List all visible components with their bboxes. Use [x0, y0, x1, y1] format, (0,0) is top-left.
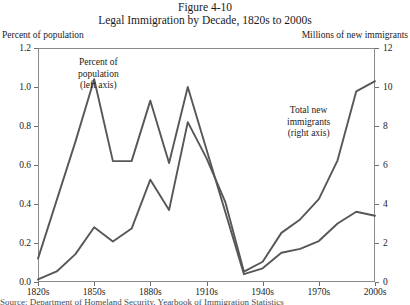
y-tick-label-left: 1.0	[19, 82, 31, 92]
x-tick-label: 1940s	[251, 287, 274, 297]
x-tick-label: 2000s	[364, 287, 387, 297]
annotation-right-line2: immigrants	[287, 117, 330, 129]
source-caption: Source: Department of Homeland Security,…	[0, 297, 410, 305]
y-tick-label-left: 0.4	[19, 199, 31, 209]
annotation-percent-of-population: Percent of population (left axis)	[78, 57, 119, 92]
y-tick-label-right: 10	[383, 82, 393, 92]
y-tick-right	[375, 126, 379, 127]
x-tick	[207, 282, 208, 286]
left-axis-caption: Percent of population	[2, 30, 84, 41]
right-axis-caption: Millions of new immigrants	[302, 30, 408, 41]
x-tick	[263, 282, 264, 286]
x-tick-label: 1850s	[83, 287, 106, 297]
x-tick-label: 1910s	[195, 287, 218, 297]
figure-title: Legal Immigration by Decade, 1820s to 20…	[0, 14, 410, 27]
y-tick-right	[375, 204, 379, 205]
x-tick-label: 1820s	[27, 287, 50, 297]
y-tick-label-right: 2	[383, 238, 388, 248]
y-tick-label-left: 1.2	[19, 43, 31, 53]
y-tick-label-left: 0.2	[19, 238, 31, 248]
y-tick-right	[375, 48, 379, 49]
x-tick	[150, 282, 151, 286]
annotation-left-line3: (left axis)	[78, 80, 119, 92]
y-tick-label-left: 0.6	[19, 160, 31, 170]
y-tick-label-right: 6	[383, 160, 388, 170]
figure-number: Figure 4-10	[0, 1, 410, 14]
y-tick-label-right: 12	[383, 43, 393, 53]
x-tick-label: 1880s	[139, 287, 162, 297]
y-tick-right	[375, 243, 379, 244]
x-tick	[375, 282, 376, 286]
y-tick-label-right: 8	[383, 121, 388, 131]
annotation-right-line3: (right axis)	[287, 128, 330, 140]
y-tick-right	[375, 165, 379, 166]
x-tick-label: 1970s	[307, 287, 330, 297]
y-tick-right	[375, 87, 379, 88]
x-tick	[319, 282, 320, 286]
annotation-left-line2: population	[78, 69, 119, 81]
annotation-total-new-immigrants: Total new immigrants (right axis)	[287, 105, 330, 140]
y-tick-label-left: 0.0	[19, 277, 31, 287]
annotation-left-line1: Percent of	[78, 57, 119, 69]
y-tick-label-right: 0	[383, 277, 388, 287]
figure-container: Figure 4-10 Legal Immigration by Decade,…	[0, 0, 410, 305]
y-tick-label-left: 0.8	[19, 121, 31, 131]
annotation-right-line1: Total new	[287, 105, 330, 117]
x-tick	[38, 282, 39, 286]
y-tick-label-right: 4	[383, 199, 388, 209]
x-tick	[94, 282, 95, 286]
